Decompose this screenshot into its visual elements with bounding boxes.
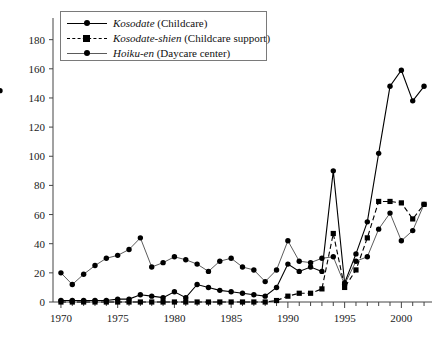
chart-figure: 020406080100120140160180 197019751980198… [0, 0, 439, 340]
data-point-marker [217, 288, 222, 293]
data-point-marker [331, 254, 336, 259]
legend-swatch-solid-circle-icon [67, 17, 107, 29]
data-point-marker [387, 199, 392, 204]
data-point-marker [262, 279, 267, 284]
data-point-marker [421, 84, 426, 89]
data-point-marker [274, 298, 279, 303]
legend-gloss-kosodate: (Childcare) [157, 17, 207, 29]
legend-label-kosodate: Kosodate (Childcare) [113, 17, 207, 29]
legend-term-hoiku-en: Hoiku-en [113, 47, 154, 59]
data-point-marker [285, 261, 290, 266]
data-point-marker [274, 285, 279, 290]
data-point-marker [217, 299, 222, 304]
x-tick-label: 2000 [390, 312, 413, 324]
data-point-marker [149, 299, 154, 304]
data-point-marker [319, 269, 324, 274]
data-point-marker [217, 258, 222, 263]
data-point-marker [410, 216, 415, 221]
data-point-marker [92, 298, 97, 303]
y-axis-tick-labels: 020406080100120140160180 [29, 34, 46, 308]
data-point-marker [240, 291, 245, 296]
data-point-marker [206, 299, 211, 304]
data-point-marker [138, 235, 143, 240]
data-point-marker [410, 228, 415, 233]
data-point-marker [331, 168, 336, 173]
legend-gloss-hoiku-en: (Daycare center) [157, 47, 231, 59]
legend-item-kosodate: Kosodate (Childcare) [67, 16, 260, 30]
data-point-marker [421, 202, 426, 207]
data-point-marker [183, 257, 188, 262]
data-point-marker [81, 298, 86, 303]
y-tick-label: 180 [29, 34, 46, 46]
data-point-marker [229, 299, 234, 304]
x-tick-label: 1990 [277, 312, 300, 324]
y-tick-label: 20 [34, 267, 46, 279]
data-point-marker [387, 210, 392, 215]
legend-gloss-kosodate-shien: (Childcare support) [184, 32, 270, 44]
data-point-marker [194, 282, 199, 287]
legend-label-kosodate-shien: Kosodate-shien (Childcare support) [113, 32, 270, 44]
data-point-marker [58, 298, 63, 303]
y-tick-label: 40 [34, 238, 46, 250]
data-point-marker [387, 84, 392, 89]
legend-item-kosodate-shien: Kosodate-shien (Childcare support) [67, 31, 260, 45]
data-point-marker [149, 264, 154, 269]
data-point-marker [104, 298, 109, 303]
data-point-marker [206, 285, 211, 290]
legend-swatch-light-circle-icon [67, 47, 107, 59]
x-tick-label: 1985 [220, 312, 243, 324]
data-point-marker [58, 270, 63, 275]
x-tick-label: 1975 [107, 312, 130, 324]
data-point-marker [228, 289, 233, 294]
legend-term-kosodate: Kosodate [113, 17, 155, 29]
y-tick-label: 100 [29, 150, 46, 162]
y-tick-label: 140 [29, 92, 46, 104]
data-point-marker [274, 267, 279, 272]
data-point-marker [331, 231, 336, 236]
data-point-marker [297, 291, 302, 296]
x-tick-label: 1970 [50, 312, 73, 324]
data-point-marker [149, 293, 154, 298]
data-point-marker [126, 247, 131, 252]
series-kosodate [0, 68, 427, 304]
data-point-marker [365, 235, 370, 240]
data-point-marker [399, 200, 404, 205]
data-point-marker [251, 292, 256, 297]
data-point-marker [240, 264, 245, 269]
legend-swatch-dashed-square-icon [67, 32, 107, 44]
data-point-marker [81, 272, 86, 277]
data-point-marker [0, 88, 3, 93]
data-point-marker [342, 280, 347, 285]
legend-item-hoiku-en: Hoiku-en (Daycare center) [67, 46, 260, 60]
data-point-marker [251, 267, 256, 272]
data-point-marker [251, 299, 256, 304]
data-point-marker [365, 254, 370, 259]
data-point-marker [160, 295, 165, 300]
data-point-marker [70, 282, 75, 287]
data-point-marker [297, 258, 302, 263]
series-hoiku-en [58, 202, 427, 288]
series-kosodate-shien [58, 199, 426, 305]
x-tick-label: 1995 [334, 312, 357, 324]
data-point-marker [353, 251, 358, 256]
data-point-marker [240, 299, 245, 304]
data-point-marker [308, 291, 313, 296]
x-tick-label: 1980 [163, 312, 186, 324]
data-point-marker [365, 219, 370, 224]
data-point-marker [172, 254, 177, 259]
data-point-marker [319, 286, 324, 291]
data-point-marker [195, 299, 200, 304]
y-tick-label: 0 [40, 296, 46, 308]
data-point-marker [126, 296, 131, 301]
x-axis-tick-labels: 1970197519801985199019952000 [50, 312, 413, 324]
data-point-marker [263, 299, 268, 304]
data-point-marker [410, 98, 415, 103]
data-point-marker [183, 295, 188, 300]
data-point-marker [172, 299, 177, 304]
data-point-marker [104, 256, 109, 261]
data-point-marker [160, 260, 165, 265]
data-point-marker [138, 299, 143, 304]
legend-label-hoiku-en: Hoiku-en (Daycare center) [113, 47, 230, 59]
y-tick-label: 120 [29, 121, 46, 133]
data-point-marker [399, 68, 404, 73]
